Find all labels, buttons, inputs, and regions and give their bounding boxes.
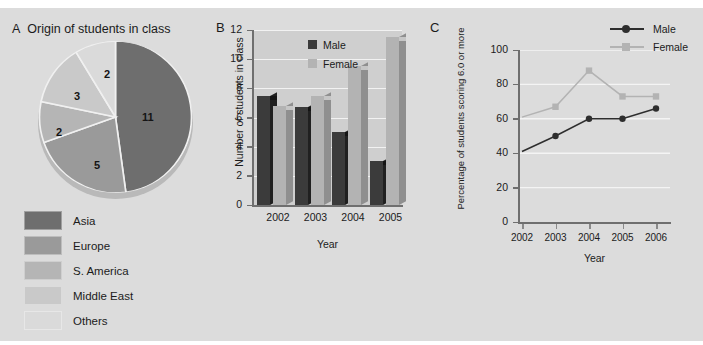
data-point-male-2005 (619, 116, 625, 122)
panel-a-title-text: Origin of students in class (27, 22, 170, 36)
panel-b-x-axis (252, 205, 403, 207)
legend-marker-circle-icon (622, 25, 630, 33)
y-tick (247, 30, 252, 32)
y-tick (513, 222, 518, 224)
bar-female-2003 (311, 96, 324, 205)
legend-swatch-icon (24, 236, 62, 255)
data-point-male-2004 (586, 116, 592, 122)
y-tick-label: 0 (218, 198, 242, 210)
data-point-female-2004 (586, 67, 592, 73)
panel-b-y-axis (252, 30, 254, 206)
bar-top-face (270, 96, 277, 100)
bar-top-face (324, 96, 331, 100)
data-point-male-2006 (653, 105, 659, 111)
legend-label: Europe (73, 240, 110, 252)
bar-front (332, 132, 345, 205)
x-tick-label: 2005 (371, 211, 411, 223)
pie-label-middle-east: 3 (74, 90, 80, 102)
panel-b-legend: MaleFemale (308, 36, 358, 74)
x-tick-label: 2004 (333, 211, 373, 223)
line-series-male (522, 109, 656, 152)
legend-label: Female (653, 41, 688, 53)
y-tick-label: 80 (482, 77, 508, 89)
x-tick (623, 224, 625, 229)
panel-a-title: AOrigin of students in class (12, 22, 170, 36)
legend-swatch-icon (24, 311, 62, 330)
y-tick-label: 12 (218, 23, 242, 35)
y-tick-label: 20 (482, 181, 508, 193)
y-tick (513, 153, 518, 155)
bar-front (257, 96, 270, 205)
bar-female-2005 (386, 37, 399, 205)
panel-c-x-axis (518, 222, 671, 224)
bar-front (311, 96, 324, 205)
panel-c-legend: MaleFemale (610, 20, 688, 56)
panel-a: AOrigin of students in class 11 5 2 3 2 … (0, 8, 212, 341)
y-tick-label: 60 (482, 112, 508, 124)
gridline (252, 30, 402, 31)
legend-item-asia: Asia (24, 208, 194, 233)
x-tick (556, 224, 558, 229)
panel-c: C Percentage of students scoring 6.0 or … (420, 8, 703, 341)
legend-swatch-icon (24, 261, 62, 280)
bar-male-2005 (370, 161, 383, 205)
bar-side-face (286, 102, 293, 205)
x-tick (589, 224, 591, 229)
y-tick-label: 40 (482, 146, 508, 158)
bar-side-face (361, 63, 368, 205)
legend-item-s-america: S. America (24, 258, 194, 283)
y-tick (513, 84, 518, 86)
y-tick-label: 0 (482, 215, 508, 227)
legend-swatch-icon (308, 59, 317, 68)
x-tick (656, 224, 658, 229)
panel-c-x-axis-label: Year (518, 252, 671, 264)
pie-disc (38, 41, 193, 193)
legend-item-europe: Europe (24, 233, 194, 258)
bar-front (273, 106, 286, 205)
y-tick (513, 50, 518, 52)
x-tick-label: 2003 (539, 232, 573, 243)
figure-canvas: AOrigin of students in class 11 5 2 3 2 … (0, 8, 703, 341)
bar-top-face (361, 66, 368, 70)
panel-b-y-axis-label: Number of students in class (233, 27, 245, 177)
legend-swatch-icon (24, 286, 62, 305)
panel-c-y-axis-label: Percentage of students scoring 6.0 or mo… (455, 19, 466, 219)
y-tick (247, 146, 252, 148)
pie-label-europe: 5 (94, 159, 100, 171)
y-tick-label: 100 (482, 43, 508, 55)
legend-label: Female (323, 58, 358, 70)
bar-front (348, 66, 361, 205)
y-tick-label: 6 (218, 111, 242, 123)
x-tick-label: 2004 (572, 232, 606, 243)
panel-c-plot-area (518, 50, 670, 222)
legend-label: Male (323, 39, 346, 51)
x-tick-label: 2002 (505, 232, 539, 243)
panel-c-y-axis (518, 50, 520, 223)
bar-top-face (399, 37, 406, 41)
legend-key-icon (610, 42, 644, 52)
bar-side-face (324, 92, 331, 205)
data-point-male-2003 (552, 133, 558, 139)
y-tick-label: 2 (218, 169, 242, 181)
panel-c-line-svg (518, 50, 670, 222)
bar-side-face (399, 34, 406, 205)
y-tick-label: 8 (218, 81, 242, 93)
legend-label: S. America (73, 265, 129, 277)
y-tick (513, 118, 518, 120)
bar-female-2002 (273, 106, 286, 205)
pie-chart: 11 5 2 3 2 (36, 35, 196, 203)
y-tick (247, 88, 252, 90)
x-tick-label: 2002 (258, 211, 298, 223)
bar-front (386, 37, 399, 205)
pie-label-asia: 11 (142, 111, 154, 123)
legend-swatch-icon (24, 211, 62, 230)
panel-b: B Number of students in class 024681012 … (212, 8, 420, 341)
bar-female-2004 (348, 66, 361, 205)
legend-item-male: Male (308, 36, 358, 53)
y-tick (247, 59, 252, 61)
legend-item-others: Others (24, 308, 194, 333)
panel-b-x-axis-label: Year (252, 238, 403, 250)
legend-label: Others (73, 315, 108, 327)
data-point-female-2005 (619, 93, 625, 99)
legend-item-female: Female (610, 38, 688, 56)
